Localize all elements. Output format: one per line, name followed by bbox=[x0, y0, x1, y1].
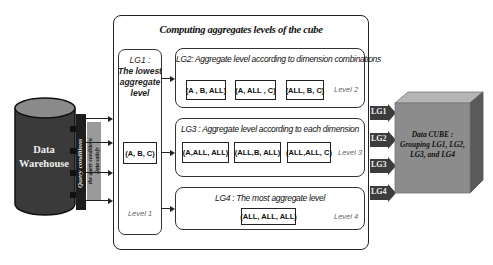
input-arrow-line-4 bbox=[86, 200, 109, 201]
lg2-cell-1: (A , B, ALL) bbox=[186, 80, 226, 100]
input-arrow-line-2 bbox=[86, 142, 109, 143]
lg4-level-label: Level 4 bbox=[334, 212, 358, 221]
diagram-title: Computing aggregates levels of the cube bbox=[113, 24, 369, 35]
output-arrow-lg4-label: LG4 bbox=[371, 187, 387, 196]
data-cube-label-line2: Grouping LG1, LG2, bbox=[395, 140, 470, 150]
lg3-cell-1: (A,ALL, ALL) bbox=[182, 142, 229, 163]
data-cube-label-line3: LG3, and LG4 bbox=[395, 150, 470, 160]
lg1-desc-line2: aggregate bbox=[118, 77, 162, 88]
lg3-group: LG3 : Aggregate level according to each … bbox=[175, 118, 365, 177]
lg3-title: LG3 : Aggregate level according to each … bbox=[176, 124, 364, 134]
lg4-title: LG4 : The most aggregate level bbox=[176, 193, 364, 203]
output-arrow-lg1-label: LG1 bbox=[371, 107, 387, 116]
lg3-level-label: Level 3 bbox=[338, 148, 362, 157]
data-warehouse-label-line1: Data bbox=[15, 143, 73, 157]
lg2-cell-2: (A, ALL , C) bbox=[235, 80, 276, 100]
output-arrow-lg2-label: LG2 bbox=[371, 134, 387, 143]
lg2-title: LG2: Aggregate level according to dimens… bbox=[176, 54, 364, 64]
lg2-group: LG2: Aggregate level according to dimens… bbox=[175, 48, 365, 108]
lg1-desc-line1: The lowest bbox=[118, 66, 162, 77]
lg3-cell-3: (ALL,ALL, C) bbox=[287, 142, 331, 163]
query-conditions-label: Query conditions bbox=[76, 118, 86, 208]
lg1-cell-abc: (A, B, C) bbox=[123, 142, 157, 164]
lg1-description: LG1 : The lowest aggregate level bbox=[118, 55, 162, 99]
data-warehouse-label-line2: Warehouse bbox=[15, 157, 73, 171]
data-warehouse-label: Data Warehouse bbox=[15, 143, 73, 171]
filtered-data-label-line1: Data satisfy bbox=[94, 126, 101, 196]
lg1-level-label: Level 1 bbox=[118, 209, 162, 218]
lg2-cell-3: (ALL, B, C) bbox=[286, 80, 324, 100]
lg1-title: LG1 : bbox=[118, 55, 162, 66]
lg2-level-label: Level 2 bbox=[334, 85, 358, 94]
filtered-data-label-line2: the query conditions bbox=[87, 126, 94, 196]
data-cube-label: Data CUBE : Grouping LG1, LG2, LG3, and … bbox=[395, 130, 470, 160]
lg1-desc-line3: level bbox=[118, 88, 162, 99]
input-arrow-line-1 bbox=[86, 118, 109, 119]
data-cube-label-line1: Data CUBE : bbox=[395, 130, 470, 140]
output-arrow-lg3-label: LG3 bbox=[371, 160, 387, 169]
lg4-cell-1: (ALL, ALL, ALL) bbox=[241, 208, 296, 225]
lg3-cell-2: (ALL,B, ALL) bbox=[234, 142, 281, 163]
lg4-group: LG4 : The most aggregate level (ALL, ALL… bbox=[175, 187, 365, 230]
input-arrow-line-3 bbox=[86, 172, 109, 173]
